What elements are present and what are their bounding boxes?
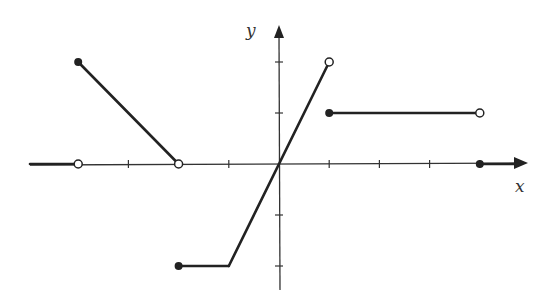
open-endpoint-marker (476, 109, 484, 117)
open-endpoint-marker (74, 160, 82, 168)
closed-endpoint-marker (74, 58, 82, 66)
y-axis-arrow-icon (274, 25, 284, 38)
closed-endpoint-marker (476, 160, 484, 168)
plot-area (0, 0, 554, 305)
open-endpoint-marker (175, 160, 183, 168)
x-axis-line (30, 163, 520, 165)
axes (30, 25, 528, 290)
decreasing-segment (78, 62, 178, 164)
y-axis-label: y (246, 20, 256, 40)
piecewise-function-graph: y x (0, 0, 554, 305)
x-axis-label: x (515, 176, 525, 196)
open-endpoint-marker (325, 58, 333, 66)
closed-endpoint-marker (325, 109, 333, 117)
closed-endpoint-marker (175, 262, 183, 270)
